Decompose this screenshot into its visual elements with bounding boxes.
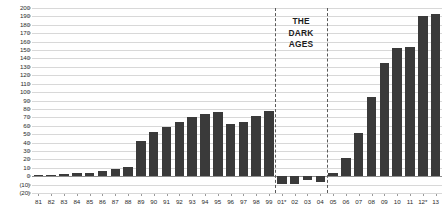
x-axis-tick-mark xyxy=(38,194,39,196)
y-axis-tick-label: 130 xyxy=(0,64,30,70)
x-axis-tick-label: 07 xyxy=(355,198,362,205)
y-axis-tick-mark xyxy=(28,24,31,25)
y-axis-tick-label: 170 xyxy=(0,30,30,36)
y-axis-tick-mark xyxy=(28,83,31,84)
y-axis-tick-label: 30 xyxy=(0,148,30,154)
y-axis-tick-label: 20 xyxy=(0,156,30,162)
x-axis-tick-label: 02 xyxy=(291,198,298,205)
bar xyxy=(136,141,145,176)
bar xyxy=(34,175,43,176)
x-axis-tick-label: 13 xyxy=(432,198,439,205)
y-axis-tick-mark xyxy=(28,150,31,151)
y-axis-tick-mark xyxy=(28,33,31,34)
x-axis-tick-mark xyxy=(282,194,283,196)
x-axis-tick-label: 82 xyxy=(48,198,55,205)
x-axis-tick-mark xyxy=(295,194,296,196)
bar xyxy=(418,16,427,177)
bar xyxy=(111,169,120,176)
dark-ages-annotation-line: AGES xyxy=(275,39,326,51)
y-axis-tick-mark xyxy=(28,75,31,76)
x-axis-tick-mark xyxy=(397,194,398,196)
x-axis-tick-label: 91 xyxy=(163,198,170,205)
dark-ages-annotation: THEDARKAGES xyxy=(275,16,326,51)
x-axis-tick-mark xyxy=(90,194,91,196)
x-axis-tick-mark xyxy=(372,194,373,196)
y-axis-tick-mark xyxy=(28,184,31,185)
bar xyxy=(226,124,235,176)
bar xyxy=(328,173,337,176)
y-axis-tick-label: 110 xyxy=(0,81,30,87)
x-axis-tick-mark xyxy=(346,194,347,196)
bar xyxy=(341,158,350,177)
x-axis-tick-label: 81 xyxy=(35,198,42,205)
x-axis-tick-mark xyxy=(192,194,193,196)
y-axis-tick-mark xyxy=(28,8,31,9)
x-axis-tick-mark xyxy=(423,194,424,196)
y-axis-tick-label: 90 xyxy=(0,97,30,103)
x-axis-tick-label: 93 xyxy=(189,198,196,205)
y-axis-tick-label: 100 xyxy=(0,89,30,95)
y-axis-tick-label: 190 xyxy=(0,13,30,19)
bar xyxy=(264,111,273,176)
x-axis-tick-label: 03 xyxy=(304,198,311,205)
bar xyxy=(251,116,260,176)
x-axis-tick-mark xyxy=(102,194,103,196)
y-axis-tick-label: 180 xyxy=(0,22,30,28)
bar xyxy=(213,112,222,176)
y-axis-tick-mark xyxy=(28,193,31,194)
x-axis-tick-label: 88 xyxy=(125,198,132,205)
bar xyxy=(431,14,440,176)
x-axis-tick-mark xyxy=(256,194,257,196)
bar xyxy=(277,176,286,184)
bar xyxy=(354,133,363,176)
x-axis-tick-label: 10 xyxy=(394,198,401,205)
bar xyxy=(85,173,94,176)
bar xyxy=(367,97,376,176)
x-axis-tick-label: 05 xyxy=(330,198,337,205)
y-axis-tick-mark xyxy=(28,167,31,168)
x-axis-tick-mark xyxy=(333,194,334,196)
y-axis-tick-label: 50 xyxy=(0,131,30,137)
x-axis-tick-mark xyxy=(167,194,168,196)
y-axis-tick-label: 140 xyxy=(0,55,30,61)
y-axis-tick-label: 0 xyxy=(0,173,30,179)
y-axis-tick-mark xyxy=(28,125,31,126)
x-axis-tick-label: 08 xyxy=(368,198,375,205)
x-axis-tick-mark xyxy=(307,194,308,196)
x-axis-tick-mark xyxy=(154,194,155,196)
y-axis-tick-mark xyxy=(28,117,31,118)
bar xyxy=(303,176,312,180)
dark-ages-annotation-line: THE xyxy=(275,16,326,28)
x-axis-tick-mark xyxy=(231,194,232,196)
y-axis-tick-mark xyxy=(28,176,31,177)
bar xyxy=(187,117,196,176)
x-axis-tick-label: 89 xyxy=(137,198,144,205)
gridline xyxy=(32,193,442,194)
x-axis-tick-mark xyxy=(243,194,244,196)
bar xyxy=(98,171,107,176)
x-axis-tick-label: 97 xyxy=(240,198,247,205)
x-axis-tick-mark xyxy=(218,194,219,196)
bar xyxy=(239,122,248,176)
bar xyxy=(392,48,401,176)
bar xyxy=(123,167,132,176)
y-axis: 2001901801701601501401301201101009080706… xyxy=(0,0,30,219)
bar xyxy=(290,176,299,184)
x-axis-tick-mark xyxy=(384,194,385,196)
x-axis-tick-mark xyxy=(115,194,116,196)
x-axis-tick-mark xyxy=(205,194,206,196)
y-axis-tick-mark xyxy=(28,41,31,42)
x-axis-tick-label: 11 xyxy=(407,198,413,205)
y-axis-tick-label: (10) xyxy=(0,181,30,187)
x-axis-tick-mark xyxy=(141,194,142,196)
x-axis-tick-label: 86 xyxy=(99,198,106,205)
y-axis-tick-mark xyxy=(28,134,31,135)
y-axis-tick-label: 120 xyxy=(0,72,30,78)
x-axis-tick-mark xyxy=(179,194,180,196)
x-axis-tick-label: 96 xyxy=(227,198,234,205)
bar-chart: 2001901801701601501401301201101009080706… xyxy=(0,0,442,219)
bar xyxy=(405,47,414,177)
y-axis-tick-mark xyxy=(28,108,31,109)
bar xyxy=(46,175,55,176)
y-axis-tick-mark xyxy=(28,16,31,17)
